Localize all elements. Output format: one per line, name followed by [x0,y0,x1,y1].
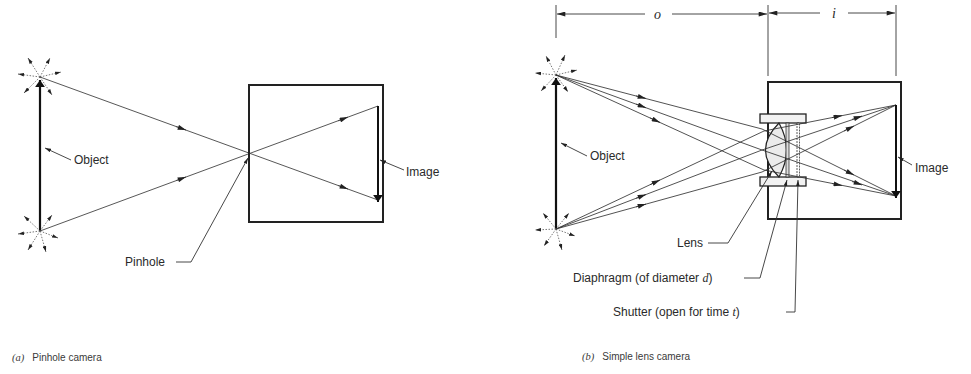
caption-a: (a) Pinhole camera [12,347,102,364]
caption-b-text: Simple lens camera [602,351,690,362]
camera-diagram: Object Image Pinhole (a) Pinhole camera … [0,0,971,374]
lens-housing-bottom [760,177,806,186]
caption-a-letter: (a) [12,352,25,364]
object-label: Object [74,153,109,167]
light-rays-top [556,75,896,196]
lens-assembly [760,114,806,186]
caption-a-text: Pinhole camera [32,352,102,363]
lens-label: Lens [677,236,703,250]
caption-b: (b) Simple lens camera [582,346,691,363]
shutter-label: Shutter (open for time t) [613,305,740,319]
diaphragm-icon [786,123,789,177]
light-rays-bottom [556,105,896,229]
lens-housing-top [760,114,806,123]
image-distance-label: i [832,6,836,21]
label-leaders [561,143,912,312]
pinhole-label: Pinhole [125,255,165,269]
point-source-bottom-icon [18,215,58,252]
object-label: Object [590,149,625,163]
diaphragm-label: Diaphragm (of diameter d) [573,271,712,285]
diagram-canvas: Object Image Pinhole (a) Pinhole camera … [0,0,971,374]
panel-a-pinhole-camera: Object Image Pinhole (a) Pinhole camera [12,58,440,364]
shutter-icon [797,123,800,177]
panel-b-lens-camera: o i [535,5,949,363]
object-distance-label: o [654,7,661,22]
dimension-lines [556,5,896,76]
camera-box [249,85,383,222]
image-label: Image [406,165,440,179]
caption-b-letter: (b) [582,351,595,363]
image-label: Image [915,161,949,175]
